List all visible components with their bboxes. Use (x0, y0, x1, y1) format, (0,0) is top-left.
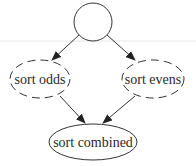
edge-start-to-evens (107, 35, 135, 60)
start-circle (74, 3, 112, 41)
node-sort-odds-label: sort odds (15, 72, 66, 87)
edge-odds-to-combined (60, 96, 85, 123)
node-sort-evens[interactable]: sort evens (122, 60, 184, 98)
edge-evens-to-combined (103, 96, 135, 123)
edge-start-to-odds (52, 35, 79, 60)
node-start[interactable] (74, 3, 112, 41)
node-sort-combined-label: sort combined (53, 135, 133, 150)
flow-diagram: sort odds sort evens sort combined (0, 0, 196, 166)
node-sort-evens-label: sort evens (125, 72, 181, 87)
node-sort-odds[interactable]: sort odds (10, 60, 70, 98)
node-sort-combined[interactable]: sort combined (49, 124, 137, 160)
